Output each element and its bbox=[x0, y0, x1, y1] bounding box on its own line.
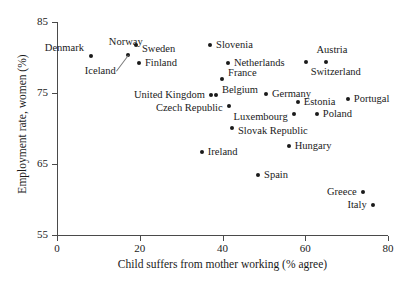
data-point-label: Estonia bbox=[304, 97, 336, 108]
data-point-label: Iceland bbox=[85, 65, 116, 76]
y-tick-mark bbox=[52, 164, 57, 165]
data-point[interactable] bbox=[315, 112, 319, 116]
data-point[interactable] bbox=[304, 60, 308, 64]
data-point-label: Sweden bbox=[142, 43, 175, 54]
label-leader-line bbox=[116, 55, 129, 72]
x-tick-label: 20 bbox=[125, 242, 155, 254]
data-point[interactable] bbox=[256, 173, 260, 177]
data-point-label: Poland bbox=[323, 109, 352, 120]
x-tick-mark bbox=[305, 236, 306, 241]
x-tick-mark bbox=[388, 236, 389, 241]
data-point-label: Luxembourg bbox=[234, 112, 288, 123]
data-point-label: Czech Republic bbox=[156, 103, 223, 114]
plot-area: 020406080 55657585 DenmarkNorwaySwedenFi… bbox=[0, 0, 410, 285]
y-tick-mark bbox=[52, 235, 57, 236]
x-axis-label: Child suffers from mother working (% agr… bbox=[57, 258, 388, 270]
scatter-plot-figure: 020406080 55657585 DenmarkNorwaySwedenFi… bbox=[0, 0, 410, 285]
data-point-label: Italy bbox=[347, 200, 366, 211]
data-point-label: Finland bbox=[145, 58, 177, 69]
y-tick-mark bbox=[52, 22, 57, 23]
data-point[interactable] bbox=[264, 92, 268, 96]
data-point-label: United Kingdom bbox=[134, 90, 205, 101]
data-point-label: Slovenia bbox=[216, 39, 253, 50]
data-point[interactable] bbox=[296, 100, 300, 104]
x-tick-label: 80 bbox=[373, 242, 403, 254]
data-point[interactable] bbox=[220, 77, 224, 81]
data-point-label: France bbox=[228, 68, 257, 79]
data-point[interactable] bbox=[200, 150, 204, 154]
data-point[interactable] bbox=[230, 126, 234, 130]
y-axis-line bbox=[57, 22, 58, 236]
x-tick-mark bbox=[140, 236, 141, 241]
data-point[interactable] bbox=[226, 61, 230, 65]
data-point-label: Spain bbox=[264, 169, 288, 180]
data-point-label: Hungary bbox=[295, 141, 332, 152]
data-point[interactable] bbox=[208, 43, 212, 47]
data-point-label: Slovak Republic bbox=[238, 126, 308, 137]
data-point-label: Ireland bbox=[208, 147, 238, 158]
data-point-label: Belgium bbox=[222, 85, 258, 96]
data-point[interactable] bbox=[292, 112, 296, 116]
data-point-label: Switzerland bbox=[311, 67, 361, 78]
data-point-label: Portugal bbox=[354, 93, 390, 104]
data-point[interactable] bbox=[137, 61, 141, 65]
data-point[interactable] bbox=[371, 203, 375, 207]
x-tick-mark bbox=[223, 236, 224, 241]
data-point[interactable] bbox=[214, 93, 218, 97]
x-tick-mark bbox=[57, 236, 58, 241]
data-point[interactable] bbox=[287, 144, 291, 148]
x-tick-label: 60 bbox=[290, 242, 320, 254]
data-point[interactable] bbox=[346, 97, 350, 101]
x-tick-label: 0 bbox=[42, 242, 72, 254]
data-point[interactable] bbox=[89, 54, 93, 58]
y-axis-label: Employment rate, women (%) bbox=[16, 14, 28, 234]
x-tick-label: 40 bbox=[208, 242, 238, 254]
y-tick-mark bbox=[52, 93, 57, 94]
data-point[interactable] bbox=[324, 60, 328, 64]
data-point[interactable] bbox=[361, 190, 365, 194]
data-point-label: Austria bbox=[316, 44, 347, 55]
data-point[interactable] bbox=[134, 43, 138, 47]
data-point-label: Greece bbox=[327, 186, 357, 197]
data-point[interactable] bbox=[209, 93, 213, 97]
data-point[interactable] bbox=[227, 104, 231, 108]
data-point-label: Denmark bbox=[45, 43, 84, 54]
